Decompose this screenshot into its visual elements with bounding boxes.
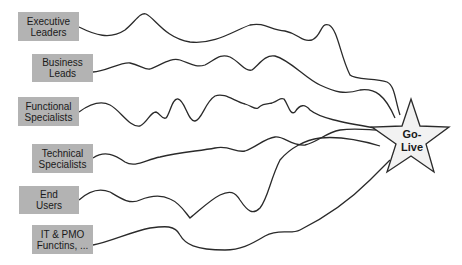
path-business-leads [93, 56, 395, 118]
stakeholder-label-line1: Technical [42, 148, 84, 159]
stakeholder-label-line2: Functins, ... [37, 240, 89, 251]
stakeholder-box-executive-leaders: Executive Leaders [18, 12, 79, 41]
go-live-line1: Go- [391, 128, 433, 141]
stakeholder-label-line2: Leaders [30, 27, 66, 38]
stakeholder-label-line1: Business [42, 57, 83, 68]
stakeholder-box-technical-specialists: Technical Specialists [32, 144, 93, 173]
path-it-pmo [93, 160, 390, 250]
go-live-line2: Live [391, 141, 433, 154]
stakeholder-box-business-leads: Business Leads [32, 54, 93, 82]
path-functional-specialists [79, 95, 375, 128]
go-live-star-label: Go- Live [391, 128, 433, 154]
path-technical-specialists [93, 129, 378, 164]
stakeholder-label-line2: Specialists [25, 112, 73, 123]
stakeholder-label-line2: Users [36, 200, 62, 211]
stakeholder-box-functional-specialists: Functional Specialists [18, 97, 79, 126]
stakeholder-label-line2: Specialists [39, 159, 87, 170]
stakeholder-box-it-pmo: IT & PMO Functins, ... [32, 225, 93, 254]
stakeholder-label-line1: IT & PMO [41, 229, 85, 240]
stakeholder-label-line1: Executive [27, 16, 70, 27]
stakeholder-label-line1: Functional [25, 101, 71, 112]
stakeholder-label-line2: Leads [49, 68, 76, 79]
path-end-users [79, 137, 380, 218]
stakeholder-box-end-users: End Users [19, 186, 79, 214]
stakeholder-label-line1: End [40, 189, 58, 200]
